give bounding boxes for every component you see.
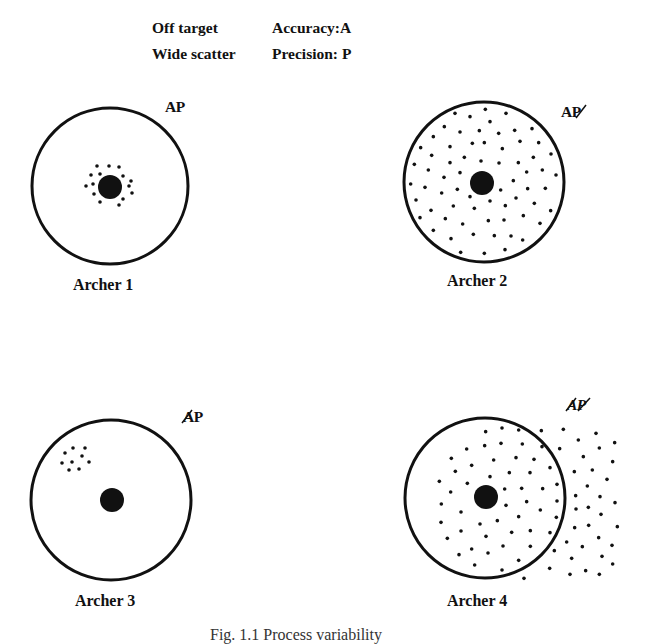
shot-dot [532,458,536,462]
shot-dot [548,531,552,535]
shot-dot [540,445,544,449]
shot-dot [517,559,521,563]
shot-dot [613,441,617,445]
shot-dot [568,573,572,577]
shot-dot [486,551,490,555]
shot-dot [500,568,504,572]
shot-dot [522,214,526,218]
shot-dot [452,204,456,208]
shot-dot [439,521,443,525]
shot-dot [525,500,529,504]
shot-dot [70,460,74,464]
bullseye [100,488,124,512]
shot-dot [454,470,458,474]
shot-dot [77,467,81,471]
shot-dot [457,553,461,557]
shot-dot [107,164,111,168]
shot-dot [488,199,492,203]
shot-dot [473,563,477,567]
shot-dot [544,187,548,191]
shot-dot [423,186,427,190]
shot-dot [444,217,448,221]
shot-dot [522,577,526,581]
label-archer-3: Archer 3 [75,592,135,610]
shot-dot [577,438,581,442]
shot-dot [541,168,545,172]
shot-dot [597,536,601,540]
shot-dot [520,487,524,491]
shot-dot [513,129,517,133]
ap-mark-archer-2: AP [561,103,581,121]
shot-dot [530,127,534,131]
shot-dot [60,461,64,465]
shot-dot [418,216,422,220]
target-archer-2 [404,102,564,262]
shot-dot [514,196,518,200]
shot-dot [598,495,602,499]
shot-dot [448,145,452,149]
target-archer-3 [31,420,191,580]
shot-dot [484,108,488,112]
shot-dot [478,522,482,526]
ap-mark-archer-1: AP [165,98,185,116]
shot-dot [504,504,508,508]
shot-dot [610,544,614,548]
shot-dot [611,562,615,566]
shot-dot [80,454,84,458]
shot-dot [517,428,521,432]
shot-dot [587,506,591,510]
shot-dot [553,549,557,553]
shot-dot [127,184,131,188]
label-archer-1: Archer 1 [73,276,133,294]
bullseye [474,485,498,509]
shot-dot [117,165,121,169]
shot-dot [98,172,102,176]
shot-dot [496,519,500,523]
shot-dot [446,537,450,541]
shot-dot [463,156,467,160]
shot-dot [488,475,492,479]
shot-dot [442,176,446,180]
shot-dot [453,112,457,116]
shot-dot [600,555,604,559]
shot-dot [521,442,525,446]
shot-dot [502,218,506,222]
shot-dot [493,234,497,238]
shot-dot [432,135,436,139]
bullseye [98,175,122,199]
shot-dot [504,204,508,208]
label-archer-2: Archer 2 [447,272,507,290]
shot-dot [509,234,513,238]
shot-dot [409,182,413,186]
shot-dot [554,173,558,177]
shot-dot [487,219,491,223]
shot-dot [549,152,553,156]
shot-dot [419,146,423,150]
shot-dot [472,233,476,237]
shot-dot [594,432,598,436]
shot-dot [526,187,530,191]
shot-dot [613,501,617,505]
shot-dot [429,209,433,213]
shot-dot [500,426,504,430]
shot-dot [532,156,536,160]
shot-dot [466,482,470,486]
shot-dot [548,466,552,470]
shot-dot [483,141,487,145]
shot-dot [471,142,475,146]
shot-dot [468,115,472,119]
shot-dot [89,173,93,177]
shot-dot [95,164,99,168]
shot-dot [501,544,505,548]
shot-dot [440,502,444,506]
shot-dot [528,471,532,475]
shot-dot [470,464,474,468]
shot-dot [130,191,134,195]
shot-dot [570,557,574,561]
shot-dot [478,129,482,133]
shot-dot [497,161,501,165]
shot-dot [529,529,533,533]
shot-dot [98,200,102,204]
shot-dot [598,446,602,450]
